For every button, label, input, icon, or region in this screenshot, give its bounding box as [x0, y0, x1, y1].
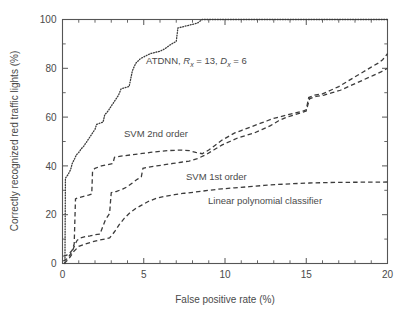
x-tick-label: 15: [301, 269, 313, 280]
annotation-svm-1st-order: SVM 1st order: [186, 171, 247, 182]
annotation-linear-polynomial-classifier: Linear polynomial classifier: [208, 195, 322, 206]
y-tick-label: 100: [40, 14, 57, 25]
y-tick-label: 40: [45, 161, 57, 172]
x-tick-label: 5: [141, 269, 147, 280]
annotation-atdnn-prefix: ATDNN,: [146, 55, 183, 66]
annotation-svm-2nd-order: SVM 2nd order: [124, 128, 188, 139]
x-tick-label: 10: [219, 269, 231, 280]
x-axis-title: False positive rate (%): [175, 294, 274, 305]
x-tick-label: 0: [60, 269, 66, 280]
y-tick-label: 80: [45, 63, 57, 74]
y-axis-title: Correctly recognized red traffic lights …: [9, 51, 20, 231]
chart-figure: 05101520 020406080100 False positive rat…: [0, 0, 411, 313]
y-tick-label: 0: [51, 258, 57, 269]
x-tick-label: 20: [382, 269, 394, 280]
annotation-atdnn-eq13: = 13,: [194, 55, 221, 66]
annotation-atdnn: ATDNN, Rx = 13, Dx = 6: [146, 55, 247, 68]
annotation-atdnn-eq6: = 6: [231, 55, 247, 66]
y-tick-label: 60: [45, 112, 57, 123]
roc-chart: 05101520 020406080100 False positive rat…: [0, 0, 411, 313]
y-tick-label: 20: [45, 209, 57, 220]
chart-background: [0, 0, 411, 313]
